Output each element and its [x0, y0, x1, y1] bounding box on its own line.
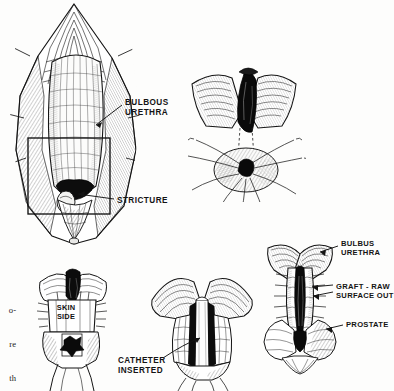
panel-e-artwork [264, 245, 336, 374]
label-catheter-inserted: CATHETER INSERTED [118, 356, 166, 377]
label-skin-side: SKIN SIDE [52, 303, 80, 321]
panel-c-artwork [37, 269, 107, 391]
medical-illustration-artwork [0, 0, 394, 391]
panel-a-artwork [0, 4, 156, 244]
bleed-line: o- [0, 305, 16, 316]
label-prostate: PROSTATE [346, 320, 389, 329]
label-bulbus-urethra: BULBUS URETHRA [341, 239, 380, 258]
label-graft-raw-surface-out: GRAFT - RAW SURFACE OUT [336, 282, 394, 301]
panel-b-artwork [180, 68, 310, 222]
figure-root: BULBOUS URETHRA STRICTURE SKIN SIDE CATH… [0, 0, 394, 391]
label-stricture: STRICTURE [117, 196, 168, 206]
bleed-line: th [0, 373, 16, 384]
bleed-line: re [0, 339, 16, 350]
column-bleed-text: o- re th is m :. In c- a, [0, 283, 16, 391]
catheter-tube [195, 300, 209, 368]
label-bulbous-urethra: BULBOUS URETHRA [125, 98, 169, 119]
panel-d-artwork [152, 279, 253, 391]
